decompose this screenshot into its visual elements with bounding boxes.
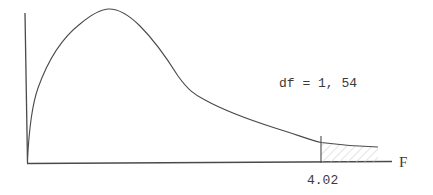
df-annotation: df = 1, 54 xyxy=(279,76,357,91)
f-distribution-chart: df = 1, 54 4.02 F xyxy=(0,0,433,195)
y-axis xyxy=(25,13,28,163)
critical-value-label: 4.02 xyxy=(307,173,338,188)
x-axis-label: F xyxy=(399,154,407,170)
